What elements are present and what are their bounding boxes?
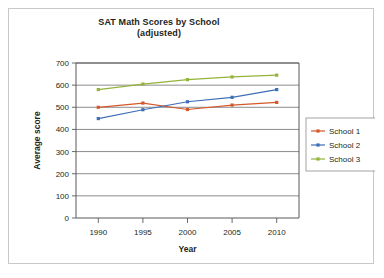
legend-marker: [316, 157, 319, 160]
data-point-marker: [186, 78, 189, 81]
legend-marker: [316, 143, 319, 146]
data-point-marker: [141, 108, 144, 111]
data-point-marker: [97, 106, 100, 109]
plot-area-wrapper: 0100200300400500600700 19901995200020052…: [9, 9, 375, 265]
data-point-marker: [97, 117, 100, 120]
y-tick-label: 300: [56, 148, 70, 157]
y-tick-label: 700: [56, 59, 70, 68]
data-point-marker: [186, 100, 189, 103]
legend-label: School 2: [329, 141, 361, 150]
data-point-marker: [275, 101, 278, 104]
x-tick-label: 2000: [179, 228, 197, 237]
legend-label: School 3: [329, 155, 361, 164]
data-point-marker: [141, 82, 144, 85]
data-point-marker: [97, 88, 100, 91]
legend-marker: [316, 129, 319, 132]
x-tick-label: 1990: [89, 228, 107, 237]
x-tick-labels-group: 19901995200020052010: [89, 228, 286, 237]
data-point-marker: [231, 75, 234, 78]
x-tick-label: 2005: [223, 228, 241, 237]
y-axis-title: Average score: [32, 111, 42, 170]
y-tick-label: 0: [65, 214, 70, 223]
data-point-marker: [231, 103, 234, 106]
gridlines-group: [76, 63, 299, 196]
y-tick-label: 100: [56, 192, 70, 201]
x-tick-marks-group: [98, 218, 276, 223]
chart-legend: School 1School 2School 3: [306, 118, 375, 171]
data-point-marker: [275, 88, 278, 91]
data-series-group: [97, 74, 279, 121]
line-chart-svg: 0100200300400500600700 19901995200020052…: [9, 9, 375, 265]
y-tick-label: 600: [56, 81, 70, 90]
x-axis-title: Year: [179, 244, 198, 254]
x-tick-label: 2010: [268, 228, 286, 237]
y-tick-label: 500: [56, 103, 70, 112]
data-point-marker: [186, 108, 189, 111]
data-point-marker: [275, 74, 278, 77]
y-tick-labels-group: 0100200300400500600700: [56, 59, 70, 223]
x-tick-label: 1995: [134, 228, 152, 237]
y-tick-label: 200: [56, 170, 70, 179]
y-tick-marks-group: [72, 63, 76, 218]
chart-figure: SAT Math Scores by School (adjusted) 010…: [8, 8, 374, 264]
data-point-marker: [231, 96, 234, 99]
legend-label: School 1: [329, 127, 361, 136]
y-tick-label: 400: [56, 125, 70, 134]
data-point-marker: [141, 101, 144, 104]
series-line: [98, 75, 276, 89]
